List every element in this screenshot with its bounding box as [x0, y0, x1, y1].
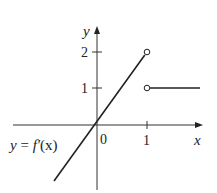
y-tick-label-1: 1: [81, 81, 88, 96]
graph: y x 0 1 1 2 y = f′(x): [0, 0, 217, 193]
open-point-1-1: [144, 85, 150, 91]
x-tick-label-1: 1: [143, 133, 150, 148]
y-axis-label: y: [81, 23, 90, 39]
origin-label: 0: [100, 132, 107, 147]
open-point-1-2: [144, 49, 150, 55]
x-axis-arrow-icon: [195, 122, 203, 128]
y-tick-label-2: 2: [81, 45, 88, 60]
y-axis-arrow-icon: [94, 26, 100, 34]
line-segment-2x: [54, 55, 145, 181]
x-axis-label: x: [193, 132, 201, 148]
function-label: y = f′(x): [8, 137, 58, 154]
